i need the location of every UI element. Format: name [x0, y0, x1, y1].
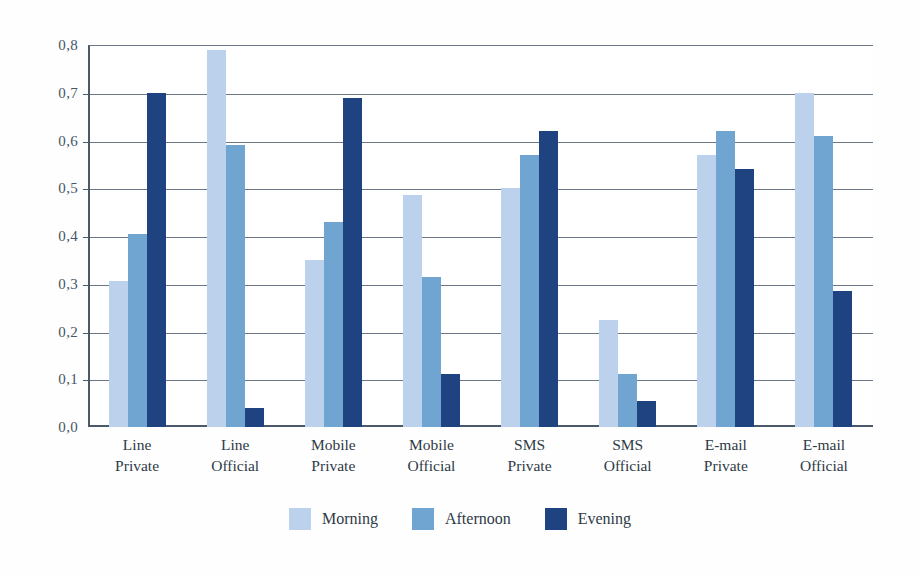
legend-item-morning[interactable]: Morning [289, 508, 378, 530]
gridline [90, 94, 873, 95]
chart-legend: MorningAfternoonEvening [0, 508, 920, 530]
gridline [90, 189, 873, 190]
legend-label-morning: Morning [322, 510, 378, 528]
legend-label-afternoon: Afternoon [445, 510, 511, 528]
legend-item-evening[interactable]: Evening [545, 508, 631, 530]
y-axis-tick [83, 142, 90, 143]
y-axis-tick [83, 237, 90, 238]
category-label-line2: Official [579, 455, 677, 476]
category-label-line1: Line [88, 434, 186, 455]
gridline [90, 380, 873, 381]
gridline [90, 142, 873, 143]
y-axis-tick [83, 380, 90, 381]
legend-swatch-morning [289, 508, 311, 530]
category-label: MobilePrivate [284, 434, 382, 476]
y-axis-tick-label: 0,5 [58, 180, 78, 197]
x-axis-category-labels: LinePrivateLineOfficialMobilePrivateMobi… [88, 434, 873, 490]
category-label: LineOfficial [186, 434, 284, 476]
category-label-line2: Private [88, 455, 186, 476]
category-label: E-mailOfficial [775, 434, 873, 476]
y-axis-tick [83, 94, 90, 95]
category-label-line1: Mobile [284, 434, 382, 455]
category-label: MobileOfficial [382, 434, 480, 476]
category-label-line1: E-mail [775, 434, 873, 455]
y-axis-tick [83, 285, 90, 286]
category-label: SMSOfficial [579, 434, 677, 476]
y-axis-tick-label: 0,2 [58, 323, 78, 340]
legend-swatch-afternoon [412, 508, 434, 530]
legend-swatch-evening [545, 508, 567, 530]
category-label-line2: Official [775, 455, 873, 476]
category-label: E-mailPrivate [677, 434, 775, 476]
y-axis-tick-label: 0,7 [58, 84, 78, 101]
y-axis-tick-labels: 0,80,70,60,50,40,30,20,10,0 [28, 45, 78, 427]
gridline [90, 237, 873, 238]
y-axis-tick-label: 0,6 [58, 132, 78, 149]
category-label-line2: Official [382, 455, 480, 476]
category-label-line2: Private [284, 455, 382, 476]
y-axis-tick-label: 0,0 [58, 419, 78, 436]
y-axis-tick-label: 0,1 [58, 371, 78, 388]
category-label-line1: Line [186, 434, 284, 455]
category-label-line1: SMS [579, 434, 677, 455]
category-label-line2: Private [481, 455, 579, 476]
category-label: LinePrivate [88, 434, 186, 476]
gridline [90, 333, 873, 334]
bar-chart: 0,80,70,60,50,40,30,20,10,0 LinePrivateL… [0, 0, 920, 576]
category-label-line2: Private [677, 455, 775, 476]
category-label-line1: Mobile [382, 434, 480, 455]
y-axis-tick-label: 0,4 [58, 228, 78, 245]
y-axis-tick [83, 333, 90, 334]
y-axis-tick-label: 0,8 [58, 37, 78, 54]
category-label-line2: Official [186, 455, 284, 476]
legend-label-evening: Evening [578, 510, 631, 528]
category-label-line1: E-mail [677, 434, 775, 455]
y-axis-tick [83, 189, 90, 190]
plot-area [88, 45, 873, 427]
legend-item-afternoon[interactable]: Afternoon [412, 508, 511, 530]
category-label: SMSPrivate [481, 434, 579, 476]
gridline [90, 285, 873, 286]
y-axis-tick-label: 0,3 [58, 275, 78, 292]
category-label-line1: SMS [481, 434, 579, 455]
